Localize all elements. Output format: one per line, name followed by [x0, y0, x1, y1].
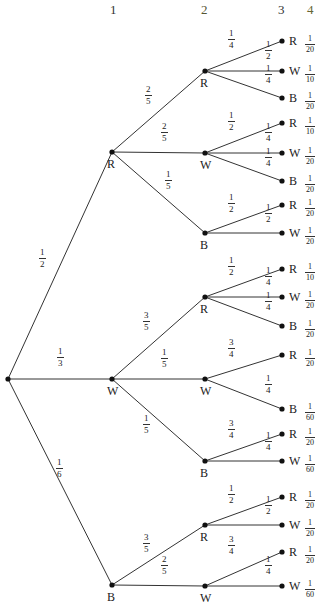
- outcome-probability: 160: [305, 580, 315, 599]
- numerator: 3: [228, 419, 235, 428]
- leaf-label: W: [289, 519, 300, 531]
- numerator: 1: [307, 175, 313, 183]
- edge-l2-5: [112, 379, 205, 461]
- numerator: 1: [39, 248, 46, 257]
- edge-l2-7: [112, 585, 205, 586]
- node-label-l2: B: [200, 239, 208, 251]
- edge-prob-l2-5: 15: [143, 414, 150, 435]
- node-l2-7: [202, 583, 207, 588]
- numerator: 1: [307, 519, 313, 527]
- numerator: 1: [265, 555, 272, 564]
- leaf-label: W: [289, 455, 300, 467]
- node-label-l2: R: [200, 77, 208, 89]
- leaf-node-15: [279, 494, 284, 499]
- leaf-label: R: [289, 263, 297, 275]
- leaf-label: B: [289, 175, 297, 187]
- numerator: 1: [307, 491, 313, 499]
- numerator: 2: [161, 555, 168, 564]
- denominator: 2: [265, 215, 272, 224]
- edge-prob-l3-7: 12: [265, 203, 272, 224]
- denominator: 20: [305, 331, 315, 339]
- denominator: 20: [305, 302, 315, 310]
- node-label-l2: R: [200, 531, 208, 543]
- numerator: 1: [56, 458, 63, 467]
- denominator: 5: [145, 97, 152, 106]
- edge-root-B: [8, 379, 112, 585]
- leaf-label: W: [289, 147, 300, 159]
- numerator: 1: [143, 414, 150, 423]
- denominator: 2: [228, 123, 235, 132]
- leaf-label: R: [289, 117, 297, 129]
- edge-prob-l2-2: 15: [165, 170, 172, 191]
- numerator: 1: [307, 199, 313, 207]
- denominator: 5: [161, 567, 168, 576]
- outcome-probability: 120: [305, 320, 315, 339]
- denominator: 20: [305, 530, 315, 538]
- edge-prob-l3-1: 12: [265, 40, 272, 61]
- edge-prob-l3-10: 14: [265, 291, 272, 312]
- node-l2-4: [202, 376, 207, 381]
- denominator: 20: [305, 186, 315, 194]
- denominator: 20: [305, 502, 315, 510]
- edge-prob-l2-0: 25: [145, 85, 152, 106]
- denominator: 60: [305, 466, 315, 474]
- outcome-probability: 120: [305, 147, 315, 166]
- node-label-l1: B: [107, 591, 115, 603]
- numerator: 1: [307, 65, 313, 73]
- leaf-label: B: [289, 320, 297, 332]
- leaf-label: W: [289, 65, 300, 77]
- node-label-l2: R: [200, 303, 208, 315]
- denominator: 2: [228, 496, 235, 505]
- leaf-node-8: [279, 266, 284, 271]
- leaf-node-14: [279, 458, 284, 463]
- numerator: 1: [265, 266, 272, 275]
- denominator: 2: [39, 260, 46, 269]
- outcome-probability: 120: [305, 35, 315, 54]
- edge-prob-W: 13: [57, 347, 64, 368]
- numerator: 1: [307, 227, 313, 235]
- denominator: 60: [305, 414, 315, 422]
- denominator: 5: [143, 545, 150, 554]
- denominator: 4: [228, 41, 235, 50]
- numerator: 1: [307, 92, 313, 100]
- numerator: 2: [145, 85, 152, 94]
- node-label-l2: W: [200, 385, 211, 397]
- leaf-label: R: [289, 546, 297, 558]
- outcome-probability: 120: [305, 519, 315, 538]
- edge-l2-3: [112, 297, 205, 379]
- node-label-l2: W: [200, 159, 211, 171]
- edge-prob-l3-14: 14: [265, 431, 272, 452]
- numerator: 1: [265, 495, 272, 504]
- outcome-probability: 120: [305, 491, 315, 510]
- edge-prob-l3-5: 14: [265, 147, 272, 168]
- node-label-l1: W: [107, 385, 118, 397]
- numerator: 2: [161, 122, 168, 131]
- numerator: 1: [265, 431, 272, 440]
- node-l1-W: [109, 376, 114, 381]
- denominator: 2: [228, 205, 235, 214]
- numerator: 1: [228, 484, 235, 493]
- node-l1-B: [109, 582, 114, 587]
- denominator: 6: [56, 470, 63, 479]
- node-label-l2: W: [200, 592, 211, 604]
- leaf-label: W: [289, 227, 300, 239]
- outcome-probability: 120: [305, 227, 315, 246]
- edge-prob-l2-3: 35: [143, 311, 150, 332]
- numerator: 3: [143, 533, 150, 542]
- numerator: 1: [265, 40, 272, 49]
- numerator: 1: [265, 374, 272, 383]
- leaf-node-10: [279, 323, 284, 328]
- node-label-l2: B: [200, 467, 208, 479]
- denominator: 4: [265, 567, 272, 576]
- numerator: 1: [228, 256, 235, 265]
- tree-edges: [0, 0, 324, 607]
- denominator: 20: [305, 360, 315, 368]
- numerator: 1: [57, 347, 64, 356]
- leaf-node-17: [279, 549, 284, 554]
- numerator: 1: [307, 428, 313, 436]
- numerator: 1: [307, 320, 313, 328]
- edge-prob-B: 16: [56, 458, 63, 479]
- numerator: 1: [161, 348, 168, 357]
- node-l1-R: [109, 149, 114, 154]
- denominator: 5: [143, 323, 150, 332]
